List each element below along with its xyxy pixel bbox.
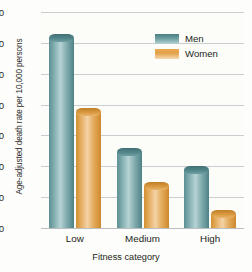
bar-body	[184, 170, 209, 228]
legend: MenWomen	[155, 31, 218, 61]
legend-item-women: Women	[155, 46, 218, 61]
bar-cap	[76, 108, 101, 116]
bar-high-women	[211, 210, 236, 229]
bar-high-men	[184, 166, 209, 228]
y-axis-tick-label: 60	[0, 37, 4, 48]
x-axis-tick-label: High	[200, 233, 220, 244]
bar-cap	[117, 148, 142, 156]
bar-body	[49, 38, 74, 228]
legend-swatch-men	[155, 34, 179, 44]
x-axis-tick-label: Low	[66, 233, 84, 244]
bar-low-men	[49, 34, 74, 228]
x-axis-title: Fitness category	[0, 252, 252, 262]
legend-item-men: Men	[155, 31, 218, 46]
y-axis-tick-label: 0	[0, 223, 4, 234]
gridline	[41, 228, 244, 229]
y-axis-tick-label: 30	[0, 130, 4, 141]
y-axis-tick-label: 20	[0, 161, 4, 172]
bar-chart: Age-adjusted death rate per 10,000 perso…	[0, 0, 252, 272]
y-axis-tick-label: 50	[0, 68, 4, 79]
legend-label: Men	[185, 33, 204, 44]
x-axis-tick-label: Medium	[125, 233, 160, 244]
y-axis-tick-label: 70	[0, 7, 4, 18]
y-axis-title: Age-adjusted death rate per 10,000 perso…	[15, 12, 24, 222]
y-axis-tick-label: 10	[0, 192, 4, 203]
legend-label: Women	[185, 48, 218, 59]
bar-medium-women	[144, 182, 169, 228]
bar-cap	[49, 34, 74, 42]
bar-cap	[184, 166, 209, 174]
bar-body	[76, 112, 101, 228]
legend-swatch-women	[155, 49, 179, 59]
y-axis-tick-label: 40	[0, 99, 4, 110]
bar-body	[117, 152, 142, 228]
bar-medium-men	[117, 148, 142, 228]
bar-cap	[144, 182, 169, 190]
bar-low-women	[76, 108, 101, 228]
bar-cap	[211, 210, 236, 218]
bar-body	[144, 186, 169, 228]
